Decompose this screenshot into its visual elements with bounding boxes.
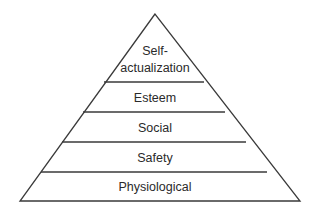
level-physiological: Physiological [119, 180, 192, 194]
level-social: Social [138, 121, 172, 135]
maslow-pyramid-diagram: Self- actualization Esteem Social Safety… [0, 0, 321, 214]
pyramid-svg: Self- actualization Esteem Social Safety… [0, 0, 321, 214]
level-self-actualization-line2: actualization [120, 61, 190, 75]
level-esteem: Esteem [134, 91, 176, 105]
pyramid-outline [20, 14, 300, 201]
level-safety: Safety [137, 151, 173, 165]
level-self-actualization-line1: Self- [142, 44, 168, 58]
